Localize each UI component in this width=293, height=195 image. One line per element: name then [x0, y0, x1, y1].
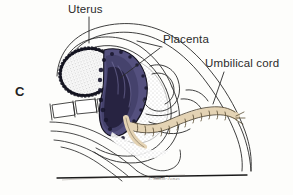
panel-letter-c: C	[15, 85, 24, 98]
sagittal-pregnancy-illustration	[0, 0, 293, 195]
label-uterus: Uterus	[68, 4, 103, 16]
artist-signature: J. Smith-Jones	[148, 176, 180, 181]
leader-placenta	[137, 41, 162, 47]
label-placenta: Placenta	[163, 34, 209, 46]
label-umbilical-cord: Umbilical cord	[205, 58, 279, 70]
medical-illustration-figure: Uterus Placenta Umbilical cord C J. Smit…	[0, 0, 293, 195]
